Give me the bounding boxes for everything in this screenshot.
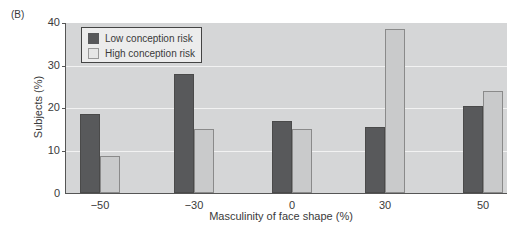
y-tick-30 bbox=[62, 66, 66, 67]
y-tick-label-10: 10 bbox=[30, 144, 60, 156]
plot-area: Low conception risk High conception risk bbox=[65, 23, 507, 194]
y-tick-10 bbox=[62, 151, 66, 152]
bar-high-3 bbox=[385, 29, 405, 193]
y-tick-label-20: 20 bbox=[30, 101, 60, 113]
legend-item-high: High conception risk bbox=[88, 46, 195, 60]
y-tick-40 bbox=[62, 23, 66, 24]
legend-item-low: Low conception risk bbox=[88, 31, 193, 45]
bar-low-2 bbox=[272, 121, 292, 193]
x-axis-title: Masculinity of face shape (%) bbox=[0, 210, 532, 222]
legend: Low conception risk High conception risk bbox=[81, 27, 202, 63]
bar-low-3 bbox=[365, 127, 385, 193]
gridline-20 bbox=[66, 108, 507, 109]
gridline-30 bbox=[66, 66, 507, 67]
legend-label-low: Low conception risk bbox=[105, 33, 193, 44]
bar-high-1 bbox=[194, 129, 214, 193]
bar-low-1 bbox=[174, 74, 194, 193]
y-tick-label-0: 0 bbox=[30, 187, 60, 199]
bar-low-4 bbox=[463, 106, 483, 193]
bar-low-0 bbox=[80, 114, 100, 193]
panel-label: (B) bbox=[11, 9, 24, 20]
y-tick-20 bbox=[62, 108, 66, 109]
legend-swatch-high bbox=[88, 48, 99, 59]
bar-high-2 bbox=[292, 129, 312, 193]
legend-swatch-low bbox=[88, 33, 99, 44]
bar-high-0 bbox=[100, 156, 120, 193]
legend-label-high: High conception risk bbox=[105, 48, 195, 59]
y-tick-label-40: 40 bbox=[30, 16, 60, 28]
bar-high-4 bbox=[483, 91, 503, 193]
y-tick-label-30: 30 bbox=[30, 59, 60, 71]
